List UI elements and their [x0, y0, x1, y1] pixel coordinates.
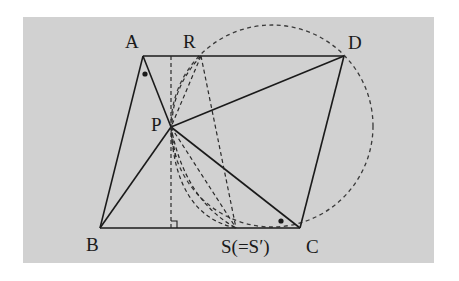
- geometry-diagram: A R D P B S(=S′) C: [0, 0, 459, 281]
- arc-from-R-1: [172, 56, 201, 160]
- label-C: C: [306, 236, 319, 257]
- segment-AB: [100, 56, 143, 228]
- segment-PD: [171, 56, 344, 127]
- arc-P-to-S-2: [171, 127, 236, 228]
- angle-mark-A: [142, 71, 147, 76]
- label-B: B: [86, 234, 99, 255]
- label-R: R: [183, 31, 196, 52]
- label-D: D: [348, 32, 362, 53]
- label-S: S(=S′): [221, 236, 270, 258]
- label-A: A: [125, 31, 139, 52]
- segment-BP: [100, 127, 171, 228]
- segment-PC: [171, 127, 300, 228]
- right-angle-mark: [171, 221, 177, 228]
- angle-mark-C: [278, 218, 283, 223]
- segment-RS: [201, 56, 236, 228]
- label-P: P: [151, 114, 162, 135]
- segment-DC: [300, 56, 344, 228]
